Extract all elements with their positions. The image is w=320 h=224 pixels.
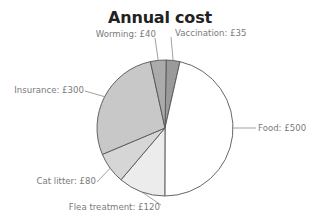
- slice-label: Insurance: £300: [14, 85, 84, 95]
- leader-line: [97, 168, 110, 182]
- pie-slice-food: [165, 62, 233, 196]
- slice-label: Worming: £40: [96, 29, 156, 39]
- leader-line: [171, 37, 173, 61]
- leader-line: [85, 91, 105, 97]
- slice-label: Cat litter: £80: [36, 176, 96, 186]
- slice-label: Food: £500: [258, 123, 306, 133]
- leader-line: [155, 38, 158, 60]
- slice-label: Flea treatment: £120: [69, 202, 160, 212]
- pie-chart: Vaccination: £35Food: £500Flea treatment…: [0, 0, 320, 224]
- slice-label: Vaccination: £35: [175, 28, 247, 38]
- pie-slices: [97, 60, 233, 196]
